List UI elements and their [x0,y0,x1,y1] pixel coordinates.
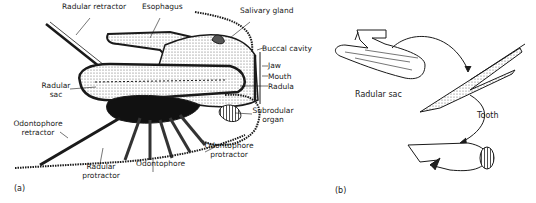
label-buccal-cavity: Buccal cavity [262,45,312,54]
label-mouth: Mouth [268,73,292,82]
label-subradular-organ: Subrodular organ [248,107,298,124]
label-radular-protractor-line2: protractor [78,172,124,181]
label-esophagus: Esophagus [142,3,183,12]
sac-arrows [345,50,418,70]
label-radular-protractor: Radular protractor [78,163,124,180]
label-subradular-organ-line2: organ [248,116,298,125]
radular-retractor-muscle [46,22,104,67]
label-tooth: Tooth [477,112,499,121]
label-odontophore: Odontophore [136,160,185,169]
label-radular-sac-line2: sac [36,91,76,100]
label-radular-retractor: Radular retractor [62,3,126,12]
flow-arrow-1 [392,36,468,70]
label-odontophore-protractor: Odontophore protractor [200,142,258,159]
label-jaw: Jaw [268,62,281,71]
tooth-blade [420,48,522,112]
label-salivary-gland: Salivary gland [240,7,293,16]
label-radula: Radula [268,83,294,92]
caption-panel-b: (b) [335,187,346,196]
panel-b-drawing [335,30,525,171]
label-odontophore-retractor-line2: retractor [10,129,66,138]
label-radular-sac: Radular sac [36,82,76,99]
label-radular-sac-b: Radular sac [355,91,402,100]
label-odontophore-protractor-line2: protractor [200,151,258,160]
curled-tooth [408,143,490,171]
label-odontophore-retractor: Odontophore retractor [10,120,66,137]
caption-panel-a: (a) [14,185,25,194]
